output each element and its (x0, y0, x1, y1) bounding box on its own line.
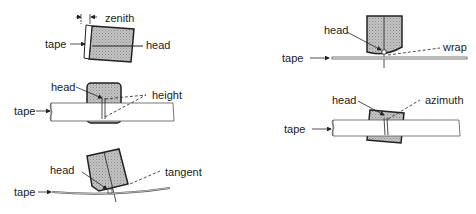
label-height: height (152, 90, 182, 101)
panel-azimuth (312, 100, 460, 143)
label-tape: tape (284, 124, 305, 135)
label-azimuth: azimuth (425, 95, 464, 106)
label-head: head (332, 95, 356, 106)
tape-shape (51, 103, 174, 121)
head-shape (87, 149, 128, 191)
tape-head-alignment-diagram: zenith tape head head height tape head t… (0, 0, 476, 214)
label-zenith: zenith (105, 13, 134, 24)
label-head: head (51, 82, 75, 93)
label-tape: tape (14, 106, 35, 117)
label-tangent: tangent (165, 167, 202, 178)
head-shape (367, 16, 402, 54)
label-tape: tape (45, 39, 66, 50)
label-tape: tape (282, 53, 303, 64)
head-shape (89, 26, 134, 62)
label-tape: tape (14, 187, 35, 198)
label-head: head (50, 165, 74, 176)
label-head: head (146, 40, 170, 51)
tape-shape (333, 120, 460, 136)
label-wrap: wrap (443, 42, 467, 53)
diagram-graphics (0, 0, 476, 214)
tape-shape (332, 57, 467, 59)
label-head: head (324, 25, 348, 36)
